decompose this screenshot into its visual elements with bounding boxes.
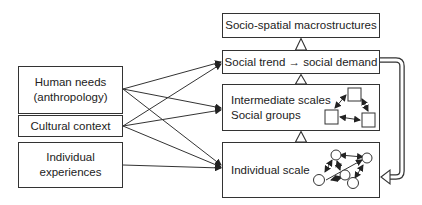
individual-scale-label: Individual scale bbox=[231, 163, 379, 178]
macrostructures-label: Socio-spatial macrostructures bbox=[225, 18, 376, 33]
level-box-intermediate: Intermediate scales Social groups bbox=[222, 84, 380, 131]
arrow-cultural-to-social-trend bbox=[123, 64, 221, 126]
arrow-human-needs-to-intermediate bbox=[123, 89, 221, 108]
human-needs-line-1: Human needs bbox=[35, 75, 107, 90]
triangle-arrow-up-1 bbox=[296, 39, 307, 51]
arrow-cultural-to-individual-scale bbox=[123, 126, 221, 167]
input-box-individual-experiences: Individual experiences bbox=[18, 142, 123, 188]
triangle-arrow-up-2 bbox=[296, 75, 307, 85]
input-box-cultural-context: Cultural context bbox=[18, 115, 123, 137]
human-needs-line-2: (anthropology) bbox=[33, 90, 107, 105]
intermediate-line-1: Intermediate scales bbox=[231, 93, 379, 108]
level-box-social-trend: Social trend → social demand bbox=[222, 50, 380, 74]
input-connection-arrows bbox=[123, 62, 221, 168]
arrow-cultural-to-intermediate bbox=[123, 110, 221, 126]
intermediate-line-2: Social groups bbox=[231, 108, 379, 123]
feedback-arrow bbox=[380, 60, 402, 184]
arrow-human-needs-to-individual-scale bbox=[123, 89, 221, 165]
individual-experiences-line-2: experiences bbox=[39, 165, 101, 180]
cultural-context-label: Cultural context bbox=[31, 119, 111, 134]
triangle-arrow-up-3 bbox=[296, 132, 307, 143]
arrow-experiences-to-individual-scale bbox=[123, 165, 221, 168]
level-box-macrostructures: Socio-spatial macrostructures bbox=[222, 13, 380, 38]
input-box-human-needs: Human needs (anthropology) bbox=[18, 66, 123, 114]
arrow-human-needs-to-social-trend bbox=[123, 62, 221, 89]
social-trend-label: Social trend → social demand bbox=[225, 55, 378, 70]
individual-experiences-line-1: Individual bbox=[46, 150, 95, 165]
level-box-individual-scale: Individual scale bbox=[222, 142, 380, 198]
